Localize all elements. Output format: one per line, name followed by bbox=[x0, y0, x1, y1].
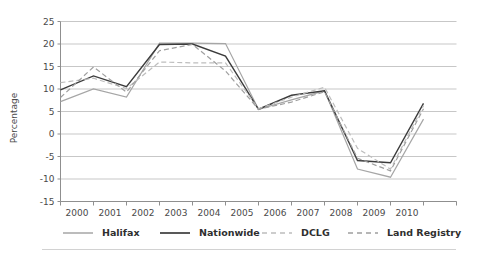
y-tick-label: -10 bbox=[40, 174, 55, 184]
y-tick-label: -15 bbox=[40, 197, 55, 207]
y-tick-label: 0 bbox=[49, 129, 55, 139]
y-tick-label: 5 bbox=[49, 107, 55, 117]
series-line-nationwide bbox=[61, 44, 424, 163]
series-line-land-registry bbox=[61, 44, 424, 170]
x-tick-label: 2005 bbox=[231, 208, 254, 218]
x-tick-labels: 2000200120022003200420052006200720082009… bbox=[66, 208, 419, 218]
legend-label-nationwide: Nationwide bbox=[199, 227, 260, 238]
series-line-halifax bbox=[61, 43, 424, 177]
line-chart: 2520151050-5-10-15 200020012002200320042… bbox=[0, 0, 498, 257]
y-tick-label: 10 bbox=[43, 84, 55, 94]
chart-canvas: 2520151050-5-10-15 200020012002200320042… bbox=[0, 0, 498, 257]
series-line-dclg bbox=[61, 62, 424, 169]
legend-label-dclg: DCLG bbox=[301, 227, 330, 238]
data-series bbox=[61, 43, 424, 177]
y-tick-label: 25 bbox=[43, 17, 54, 27]
x-tick-label: 2004 bbox=[198, 208, 221, 218]
x-tick-label: 2009 bbox=[363, 208, 386, 218]
x-tick-label: 2002 bbox=[132, 208, 155, 218]
y-tick-label: 20 bbox=[43, 39, 55, 49]
y-tick-label: 15 bbox=[43, 62, 54, 72]
y-tick-labels: 2520151050-5-10-15 bbox=[40, 17, 55, 207]
gridlines bbox=[61, 22, 457, 202]
y-tick-label: -5 bbox=[46, 152, 55, 162]
y-axis-title: Percentage bbox=[9, 92, 19, 143]
x-tick-label: 2007 bbox=[297, 208, 320, 218]
legend-label-halifax: Halifax bbox=[102, 227, 140, 238]
y-axis-title-text: Percentage bbox=[9, 92, 19, 143]
x-axis bbox=[61, 202, 457, 206]
x-tick-label: 2000 bbox=[66, 208, 89, 218]
legend-label-land-registry: Land Registry bbox=[387, 227, 462, 238]
x-tick-label: 2006 bbox=[264, 208, 287, 218]
x-tick-label: 2001 bbox=[99, 208, 122, 218]
x-tick-label: 2010 bbox=[396, 208, 419, 218]
legend: HalifaxNationwideDCLGLand Registry bbox=[63, 227, 462, 238]
x-tick-label: 2003 bbox=[165, 208, 188, 218]
x-tick-label: 2008 bbox=[330, 208, 353, 218]
y-axis bbox=[58, 22, 61, 202]
